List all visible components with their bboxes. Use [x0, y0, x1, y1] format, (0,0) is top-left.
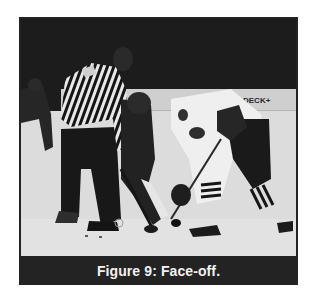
- face-off-photo: DECK+: [21, 19, 296, 256]
- figure: DECK+: [19, 17, 298, 285]
- figure-caption: Figure 9: Face-off.: [19, 256, 298, 285]
